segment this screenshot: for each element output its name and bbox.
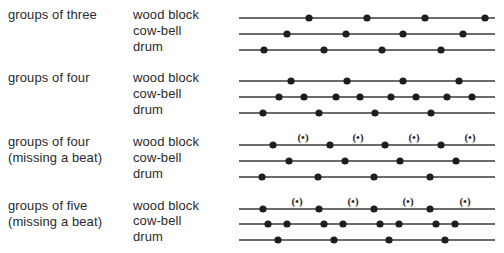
beat-dot-icon (452, 157, 459, 164)
missing-beat-icon: (•) (459, 195, 471, 208)
beat-dot-icon (399, 77, 406, 84)
beat-dot-icon (342, 30, 349, 37)
beat-dot-icon (283, 30, 290, 37)
missing-beat-icon: (•) (297, 131, 309, 144)
beat-dot-icon (315, 109, 322, 116)
beat-dot-icon (468, 93, 475, 100)
beat-dot-icon (363, 14, 370, 21)
beat-dot-icon (275, 93, 282, 100)
beat-dot-icon (258, 173, 265, 180)
beat-dot-icon (314, 173, 321, 180)
beat-dot-icon (376, 220, 383, 227)
beat-dot-icon (269, 141, 276, 148)
beat-dot-icon (300, 93, 307, 100)
beat-dot-icon (396, 157, 403, 164)
beat-dot-icon (315, 205, 322, 212)
beat-dot-icon (378, 46, 385, 53)
beat-dot-icon (371, 109, 378, 116)
beat-dot-icon (260, 46, 267, 53)
beat-dot-icon (412, 93, 419, 100)
beat-dot-icon (427, 109, 434, 116)
beat-dot-icon (455, 77, 462, 84)
beat-dot-icon (395, 220, 402, 227)
beat-dot-icon (332, 93, 339, 100)
beat-dot-icon (274, 236, 281, 243)
beat-dot-icon (387, 93, 394, 100)
beat-dot-icon (283, 220, 290, 227)
missing-beat-icon: (•) (291, 195, 303, 208)
missing-beat-icon: (•) (402, 195, 414, 208)
beat-dot-icon (285, 157, 292, 164)
beat-dot-icon (259, 205, 266, 212)
beat-dot-icon (451, 220, 458, 227)
missing-beat-icon: (•) (352, 131, 364, 144)
beat-dot-icon (339, 220, 346, 227)
beat-dot-icon (441, 236, 448, 243)
beat-dot-icon (259, 109, 266, 116)
beat-dot-icon (443, 93, 450, 100)
beat-dot-icon (343, 77, 350, 84)
beat-dot-icon (326, 141, 333, 148)
missing-beat-icon: (•) (408, 131, 420, 144)
beat-dot-icon (264, 220, 271, 227)
beat-dot-icon (459, 30, 466, 37)
beat-dot-icon (370, 173, 377, 180)
beat-dot-icon (432, 220, 439, 227)
beat-dot-icon (356, 93, 363, 100)
beat-dot-icon (330, 236, 337, 243)
beat-dot-icon (381, 141, 388, 148)
beat-dot-icon (426, 173, 433, 180)
beat-dot-icon (287, 77, 294, 84)
beat-dot-icon (437, 141, 444, 148)
rhythm-staff-lines: (•)(•)(•)(•)(•)(•)(•)(•) (0, 0, 504, 253)
beat-dot-icon (437, 46, 444, 53)
beat-dot-icon (320, 46, 327, 53)
missing-beat-icon: (•) (347, 195, 359, 208)
beat-dot-icon (320, 220, 327, 227)
beat-dot-icon (305, 14, 312, 21)
beat-dot-icon (341, 157, 348, 164)
beat-dot-icon (421, 14, 428, 21)
beat-dot-icon (399, 30, 406, 37)
beat-dot-icon (370, 205, 377, 212)
missing-beat-icon: (•) (464, 131, 476, 144)
beat-dot-icon (426, 205, 433, 212)
beat-dot-icon (481, 14, 488, 21)
beat-dot-icon (385, 236, 392, 243)
